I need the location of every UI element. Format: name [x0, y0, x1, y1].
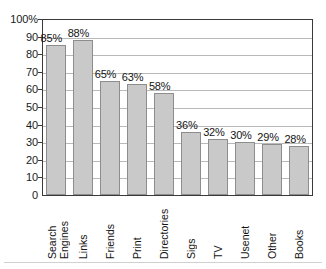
y-axis-tick-label: 70	[26, 66, 38, 78]
category-label-line: Directories	[158, 199, 170, 259]
bar	[46, 45, 66, 195]
bar-value-label: 63%	[122, 71, 143, 83]
y-axis-tick-label: 60	[26, 83, 38, 95]
bar-value-label: 30%	[230, 129, 251, 141]
bar-value-label: 36%	[176, 119, 197, 131]
x-axis-category-label: Directories	[154, 199, 174, 259]
bar	[73, 40, 93, 195]
x-axis-category-labels: SearchEnginesLinksFriendsPrintDirectorie…	[42, 199, 313, 261]
y-axis-tick-label: 100%	[10, 13, 38, 25]
bar	[235, 142, 255, 195]
bar	[289, 146, 309, 195]
category-label-line: Links	[77, 199, 89, 259]
bar	[181, 132, 201, 195]
x-axis-category-label: Other	[262, 199, 282, 259]
bar-value-label: 29%	[257, 131, 278, 143]
category-label-line: Search	[46, 199, 58, 259]
bar-value-label: 85%	[41, 32, 62, 44]
bar	[208, 139, 228, 195]
bar-value-label: 88%	[68, 27, 89, 39]
y-axis-tick-label: 20	[26, 154, 38, 166]
y-axis-tick-label: 10	[26, 171, 38, 183]
bar-value-label: 32%	[203, 126, 224, 138]
y-axis-tick-label: 30	[26, 136, 38, 148]
bar-value-label: 58%	[149, 80, 170, 92]
category-label-line: Friends	[104, 199, 116, 259]
x-axis-category-label: SearchEngines	[46, 199, 66, 259]
y-axis-tick-label: 80	[26, 48, 38, 60]
bar-chart-figure: 0102030405060708090100% 85%88%65%63%58%3…	[0, 0, 326, 269]
bar	[154, 93, 174, 195]
bar-value-label: 65%	[95, 68, 116, 80]
x-axis-category-label: TV	[208, 199, 228, 259]
x-axis-category-label: Sigs	[181, 199, 201, 259]
category-label-line: Books	[293, 199, 305, 259]
category-label-line: TV	[212, 199, 224, 259]
category-label-line: Sigs	[185, 199, 197, 259]
y-axis: 0102030405060708090100%	[0, 19, 38, 196]
y-axis-tick-label: 0	[32, 189, 38, 201]
bar	[127, 84, 147, 195]
category-label-line: Usenet	[239, 199, 251, 259]
bars-container: 85%88%65%63%58%36%32%30%29%28%	[42, 19, 313, 196]
x-axis-category-label: Friends	[100, 199, 120, 259]
bar	[100, 81, 120, 195]
x-axis-category-label: Print	[127, 199, 147, 259]
y-axis-tick-label: 90	[26, 31, 38, 43]
category-label-line: Other	[266, 199, 278, 259]
bar-value-label: 28%	[284, 133, 305, 145]
x-axis-category-label: Books	[289, 199, 309, 259]
bottom-divider	[4, 262, 322, 263]
x-axis-category-label: Links	[73, 199, 93, 259]
category-label-line: Print	[131, 199, 143, 259]
x-axis-category-label: Usenet	[235, 199, 255, 259]
y-axis-tick-label: 50	[26, 101, 38, 113]
category-label-line: Engines	[58, 199, 70, 259]
bar	[262, 144, 282, 195]
y-axis-tick-label: 40	[26, 119, 38, 131]
